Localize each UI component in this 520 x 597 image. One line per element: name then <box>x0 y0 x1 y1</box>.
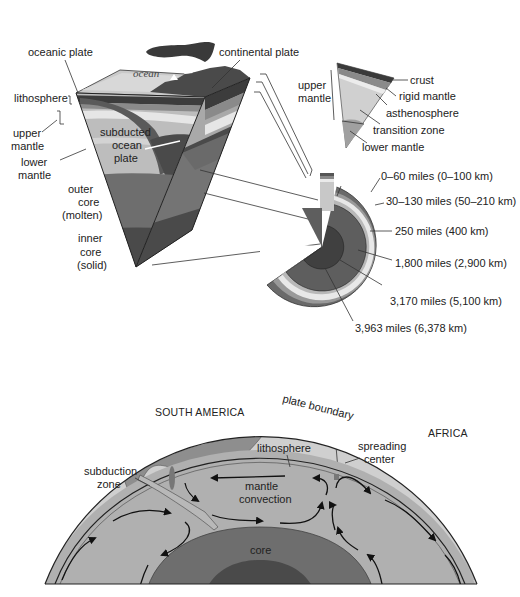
earth-cross-section <box>260 160 376 307</box>
label-plate-boundary: plate boundary <box>282 392 356 421</box>
depth-label-0: 0–60 miles (0–100 km) <box>381 170 493 182</box>
label-outer-core-3: (molten) <box>62 209 102 221</box>
label-lithosphere: lithosphere <box>14 92 68 104</box>
depth-label-3: 1,800 miles (2,900 km) <box>395 257 507 269</box>
depth-label-4: 3,170 miles (5,100 km) <box>390 295 502 307</box>
wedge-label-transition-zone: transition zone <box>373 124 445 136</box>
label-subducted-2: ocean <box>112 139 142 151</box>
label-inner-core-1: inner <box>78 232 103 244</box>
mantle-wedge: upper mantle crust rigid mantle asthenos… <box>298 63 459 153</box>
label-mantle-1: mantle <box>245 480 278 492</box>
wedge-label-upper-mantle-1: upper <box>298 79 326 91</box>
label-outer-core-2: core <box>78 196 99 208</box>
label-upper-mantle-1: upper <box>13 127 41 139</box>
label-south-america: SOUTH AMERICA <box>155 406 245 418</box>
depth-label-5: 3,963 miles (6,378 km) <box>355 322 467 334</box>
depth-label-2: 250 miles (400 km) <box>395 225 489 237</box>
label-subducted-1: subducted <box>100 126 151 138</box>
label-mantle-2: convection <box>239 493 292 505</box>
label-oceanic-plate: oceanic plate <box>28 46 93 58</box>
label-outer-core-1: outer <box>68 183 93 195</box>
wedge-label-lower-mantle: lower mantle <box>362 141 424 153</box>
label-upper-mantle-2: mantle <box>11 140 44 152</box>
label-core: core <box>250 544 271 556</box>
depth-label-1: 30–130 miles (50–210 km) <box>386 195 516 207</box>
continent-silhouette <box>146 42 215 62</box>
label-inner-core-2: core <box>80 246 101 258</box>
wedge-label-upper-mantle-2: mantle <box>298 92 331 104</box>
label-subducted-3: plate <box>114 152 138 164</box>
wedge-label-crust: crust <box>410 74 434 86</box>
wedge-label-rigid-mantle: rigid mantle <box>399 90 456 102</box>
label-continental-plate: continental plate <box>219 46 299 58</box>
label-africa: AFRICA <box>428 427 468 439</box>
earth-structure-figure: oceanic plate continental plate ocean li… <box>0 0 520 597</box>
label-lower-mantle-1: lower <box>21 156 48 168</box>
label-spreading-2: center <box>364 453 395 465</box>
label-lithosphere-globe: lithosphere <box>257 442 311 454</box>
wedge-label-asthenosphere: asthenosphere <box>386 107 459 119</box>
label-lower-mantle-2: mantle <box>18 169 51 181</box>
label-inner-core-3: (solid) <box>77 259 107 271</box>
label-spreading-1: spreading <box>358 440 406 452</box>
label-subduction-2: zone <box>97 478 121 490</box>
label-ocean: ocean <box>133 67 160 79</box>
label-subduction-1: subduction <box>84 465 137 477</box>
